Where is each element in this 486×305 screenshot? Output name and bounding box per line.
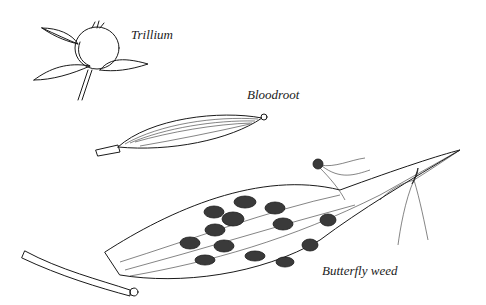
seed-pod-illustration <box>0 0 486 305</box>
bloodroot-label: Bloodroot <box>247 87 299 103</box>
trillium-label: Trillium <box>131 27 173 43</box>
butterfly-weed-label: Butterfly weed <box>322 263 397 279</box>
bloodroot-drawing <box>96 114 267 156</box>
